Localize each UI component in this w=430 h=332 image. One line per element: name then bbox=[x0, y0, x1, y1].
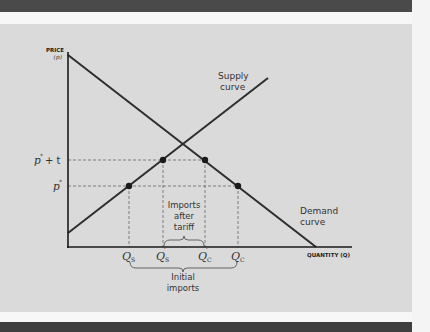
demand-label-1: Demand bbox=[300, 206, 338, 216]
brace-initial-imports bbox=[130, 262, 237, 272]
point-qc-prime bbox=[202, 157, 208, 163]
x-tick-labels: Q S Q ′ S Q ′ C Q C bbox=[122, 247, 245, 263]
p-star-t-sup: * bbox=[40, 152, 43, 159]
tick-qs: Q bbox=[122, 250, 131, 263]
imports-after-tariff-label: Imports after tariff bbox=[168, 200, 201, 232]
tick-qc-prime-sub: C bbox=[207, 256, 212, 263]
tick-p-star-t: p * + t bbox=[34, 152, 61, 166]
after-line-1: Imports bbox=[168, 200, 201, 210]
y-axis-label-bottom: (p) bbox=[53, 53, 62, 61]
x-axis-label: QUANTITY (Q) bbox=[307, 252, 350, 258]
tick-qs-prime-sub: S bbox=[165, 256, 169, 263]
p-star-sup: * bbox=[59, 178, 62, 185]
initial-imports-label: Initial imports bbox=[167, 272, 200, 293]
point-qs-prime bbox=[160, 157, 166, 163]
tick-qc-sub: C bbox=[240, 256, 245, 263]
brace-imports-after-tariff bbox=[164, 236, 204, 246]
initial-line-1: Initial bbox=[171, 272, 195, 282]
p-star-t-suffix: + t bbox=[45, 155, 61, 166]
tariff-chart: PRICE (p) QUANTITY (Q) p * + t p * Q S Q… bbox=[0, 0, 430, 332]
supply-label-1: Supply bbox=[218, 71, 249, 81]
point-qs bbox=[126, 183, 132, 189]
point-qc bbox=[235, 183, 241, 189]
after-line-3: tariff bbox=[174, 222, 195, 232]
marked-points bbox=[126, 157, 241, 189]
supply-label-2: curve bbox=[220, 82, 246, 92]
tick-qs-prime-mark: ′ bbox=[164, 247, 166, 255]
tick-qc-prime-mark: ′ bbox=[206, 247, 208, 255]
demand-label-2: curve bbox=[300, 217, 326, 227]
tick-qs-sub: S bbox=[131, 256, 135, 263]
tick-qc: Q bbox=[231, 250, 240, 263]
guide-lines bbox=[68, 160, 238, 247]
initial-line-2: imports bbox=[167, 283, 200, 293]
after-line-2: after bbox=[174, 211, 195, 221]
tick-p-star: p * bbox=[53, 178, 62, 192]
